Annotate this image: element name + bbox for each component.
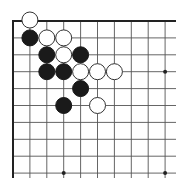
black-stone <box>56 98 72 114</box>
black-stone <box>73 47 89 63</box>
stones <box>22 12 123 114</box>
go-board <box>0 0 191 194</box>
black-stone <box>56 64 72 80</box>
black-stone <box>39 64 55 80</box>
white-stone <box>90 64 106 80</box>
white-stone <box>56 30 72 46</box>
black-stone <box>22 30 38 46</box>
white-stone <box>22 12 38 28</box>
white-stone <box>56 47 72 63</box>
white-stone <box>90 98 106 114</box>
black-stone <box>39 47 55 63</box>
white-stone <box>106 64 122 80</box>
white-stone <box>73 64 89 80</box>
star-point <box>163 171 167 175</box>
star-point <box>62 171 66 175</box>
star-point <box>163 70 167 74</box>
white-stone <box>39 30 55 46</box>
black-stone <box>73 81 89 97</box>
